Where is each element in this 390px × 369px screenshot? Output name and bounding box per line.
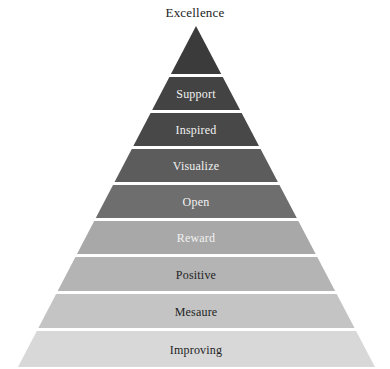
pyramid-level-label-open: Open xyxy=(183,195,210,209)
pyramid-shape: SupportInspiredVisualizeOpenRewardPositi… xyxy=(0,0,390,369)
pyramid-level-label-inspired: Inspired xyxy=(176,123,217,137)
pyramid-level-label-improving: Improving xyxy=(170,343,222,357)
pyramid-level-label-visualize: Visualize xyxy=(173,159,219,173)
pyramid-level-label-positive: Positive xyxy=(176,268,216,282)
pyramid-diagram: Excellence SupportInspiredVisualizeOpenR… xyxy=(0,0,390,369)
pyramid-level-excellence[interactable] xyxy=(171,26,221,74)
pyramid-level-label-mesaure: Mesaure xyxy=(175,305,218,319)
pyramid-level-label-support: Support xyxy=(176,87,216,101)
pyramid-level-label-reward: Reward xyxy=(177,231,216,245)
